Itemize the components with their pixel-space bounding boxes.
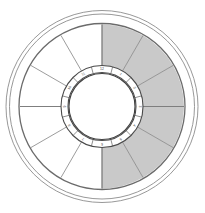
inner-ring-tick — [73, 78, 78, 83]
hour-label: 2 — [132, 86, 136, 90]
inner-ring-tick — [135, 115, 142, 117]
hour-label: 1 — [119, 72, 123, 76]
hour-label: 10 — [67, 85, 72, 90]
hour-label: 9 — [63, 105, 67, 107]
hour-label: 8 — [67, 123, 71, 127]
inner-ring-tick — [73, 131, 78, 136]
hour-label: 5 — [119, 137, 123, 141]
inner-ring-tick — [135, 96, 142, 98]
inner-ring-tick — [91, 139, 93, 146]
hub-circle — [69, 74, 135, 140]
inner-ring-tick — [62, 96, 69, 98]
inner-ring-tick — [111, 139, 113, 146]
circular-diagram: 121234567891011 — [0, 0, 205, 213]
circular-diagram-container: 121234567891011 — [0, 0, 205, 213]
hour-label: 6 — [101, 142, 103, 146]
hour-label: 7 — [81, 137, 85, 141]
inner-ring-tick — [126, 78, 131, 83]
hub-layer — [69, 74, 135, 140]
inner-ring-tick — [111, 67, 113, 74]
inner-ring-tick — [91, 67, 93, 74]
inner-ring-tick — [126, 131, 131, 136]
inner-ring-tick — [62, 115, 69, 117]
hour-label: 12 — [100, 67, 104, 71]
hour-label: 4 — [132, 123, 136, 127]
hour-label: 11 — [81, 71, 86, 76]
hour-label: 3 — [138, 106, 142, 108]
